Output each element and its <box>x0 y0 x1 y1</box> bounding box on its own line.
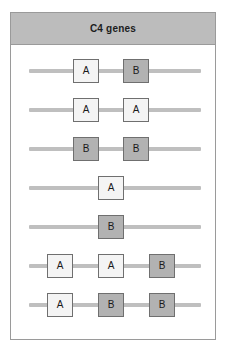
gene-box-b[interactable]: B <box>98 215 124 239</box>
haplotype-row: BB <box>11 129 215 168</box>
gene-box-a[interactable]: A <box>73 98 99 122</box>
gene-box-b[interactable]: B <box>123 137 149 161</box>
haplotype-row: AA <box>11 90 215 129</box>
gene-box-a[interactable]: A <box>47 293 73 317</box>
haplotype-row: AB <box>11 51 215 90</box>
chromosome-line <box>29 108 201 112</box>
c4-genes-panel: C4 genes ABAABBABAABABB <box>10 12 216 340</box>
gene-box-a[interactable]: A <box>47 254 73 278</box>
gene-box-b[interactable]: B <box>149 254 175 278</box>
chromosome-line <box>29 69 201 73</box>
gene-box-a[interactable]: A <box>73 59 99 83</box>
gene-box-b[interactable]: B <box>98 293 124 317</box>
gene-box-a[interactable]: A <box>123 98 149 122</box>
haplotype-row: AAB <box>11 246 215 285</box>
gene-box-a[interactable]: A <box>98 176 124 200</box>
haplotype-list: ABAABBABAABABB <box>11 45 215 324</box>
haplotype-row: B <box>11 207 215 246</box>
haplotype-row: A <box>11 168 215 207</box>
gene-box-b[interactable]: B <box>149 293 175 317</box>
gene-box-b[interactable]: B <box>73 137 99 161</box>
gene-box-b[interactable]: B <box>123 59 149 83</box>
page-title: C4 genes <box>90 23 136 34</box>
haplotype-row: ABB <box>11 285 215 324</box>
gene-box-a[interactable]: A <box>98 254 124 278</box>
panel-header: C4 genes <box>11 13 215 45</box>
chromosome-line <box>29 147 201 151</box>
